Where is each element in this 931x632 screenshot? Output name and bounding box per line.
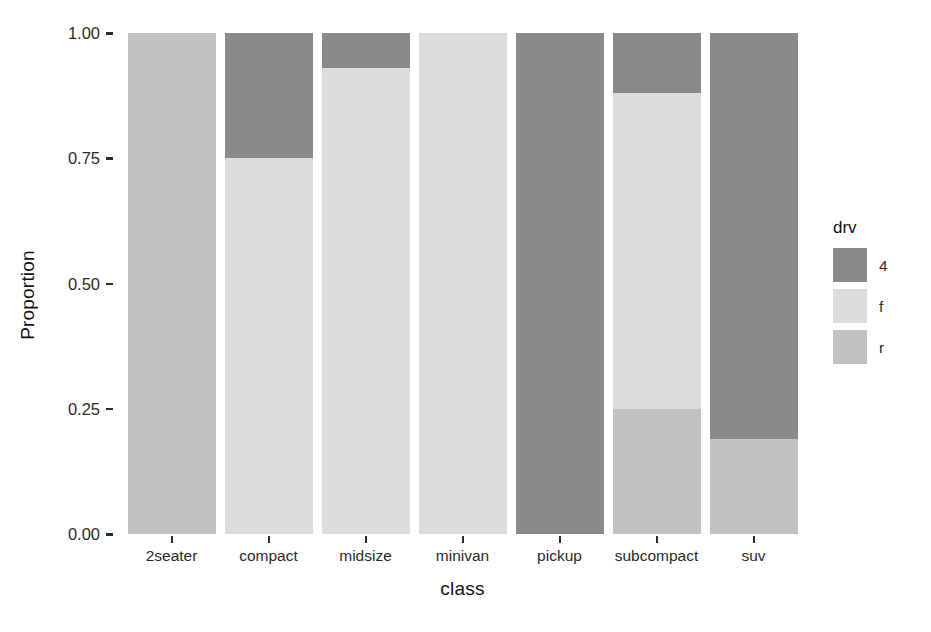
bar-segment[interactable] — [613, 93, 701, 409]
legend-item[interactable]: 4 — [833, 248, 931, 282]
bar-column[interactable] — [322, 33, 410, 534]
x-axis-tick-label: midsize — [339, 547, 392, 565]
x-axis-tick-label: 2seater — [146, 547, 198, 565]
legend-item-label: r — [879, 339, 884, 357]
legend-item-label: f — [879, 298, 883, 316]
bar-column[interactable] — [516, 33, 604, 534]
legend-item[interactable]: f — [833, 289, 931, 323]
y-axis-tick-mark — [106, 157, 113, 160]
bar-segment[interactable] — [225, 33, 313, 158]
legend-color-swatch — [833, 289, 867, 323]
bar-segment[interactable] — [613, 409, 701, 534]
chart-figure: Proportion 0.000.250.500.751.00 2seaterc… — [0, 0, 931, 632]
x-axis-tick-mark — [462, 536, 465, 543]
bar-column[interactable] — [419, 33, 507, 534]
bar-segment[interactable] — [516, 33, 604, 534]
y-axis-tick-mark — [106, 408, 113, 411]
y-axis-tick-mark — [106, 283, 113, 286]
x-axis-tick-label: pickup — [537, 547, 582, 565]
bar-segment[interactable] — [322, 68, 410, 534]
bar-segment[interactable] — [128, 33, 216, 534]
plot-panel — [123, 33, 802, 534]
legend-item[interactable]: r — [833, 330, 931, 364]
bar-column[interactable] — [613, 33, 701, 534]
legend-title: drv — [833, 218, 857, 238]
bar-segment[interactable] — [710, 33, 798, 439]
bar-segment[interactable] — [613, 33, 701, 93]
bar-segment[interactable] — [322, 33, 410, 68]
x-axis-tick-label: compact — [239, 547, 298, 565]
bar-segment[interactable] — [225, 158, 313, 534]
x-axis-title: class — [123, 578, 802, 600]
y-axis-tick-label: 0.00 — [24, 526, 100, 543]
x-axis-tick-mark — [365, 536, 368, 543]
y-axis-tick-label: 1.00 — [24, 25, 100, 42]
x-axis-tick-label: minivan — [436, 547, 489, 565]
y-axis-tick-label: 0.75 — [24, 150, 100, 167]
x-axis-tick-mark — [268, 536, 271, 543]
bar-column[interactable] — [128, 33, 216, 534]
x-axis-tick-mark — [656, 536, 659, 543]
bar-segment[interactable] — [419, 33, 507, 534]
y-axis-tick-label: 0.50 — [24, 276, 100, 293]
y-axis-tick-mark — [106, 32, 113, 35]
y-axis-title: Proportion — [17, 45, 39, 545]
legend-color-swatch — [833, 248, 867, 282]
x-axis-tick-label: subcompact — [615, 547, 699, 565]
bar-column[interactable] — [710, 33, 798, 534]
y-axis-tick-mark — [106, 533, 113, 536]
x-axis-tick-mark — [753, 536, 756, 543]
x-axis-tick-mark — [171, 536, 174, 543]
legend-color-swatch — [833, 330, 867, 364]
legend-item-label: 4 — [879, 257, 888, 275]
bar-column[interactable] — [225, 33, 313, 534]
x-axis-tick-label: suv — [741, 547, 765, 565]
y-axis-tick-label: 0.25 — [24, 401, 100, 418]
x-axis-tick-mark — [559, 536, 562, 543]
bar-segment[interactable] — [710, 439, 798, 534]
